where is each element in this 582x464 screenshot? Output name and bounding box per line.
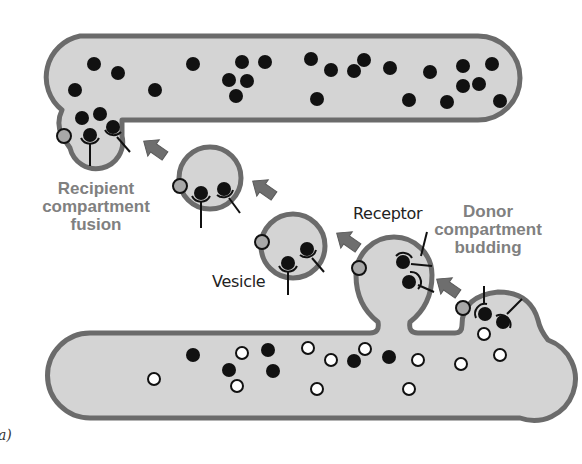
vesicle-2 bbox=[255, 214, 325, 295]
label-line: compartment bbox=[430, 221, 546, 239]
vesicle-1 bbox=[173, 147, 241, 228]
donor-budding-label: Donor compartment budding bbox=[430, 203, 546, 257]
recipient-fusion-label: Recipient compartment fusion bbox=[38, 180, 154, 234]
label-line: Recipient bbox=[38, 180, 154, 198]
receptor-label: Receptor bbox=[353, 206, 422, 223]
label-line: compartment bbox=[38, 198, 154, 216]
label-line: Donor bbox=[430, 203, 546, 221]
label-line: budding bbox=[430, 239, 546, 257]
vesicle-label: Vesicle bbox=[212, 274, 265, 291]
coat-marker bbox=[352, 261, 366, 275]
coat-marker bbox=[456, 301, 470, 315]
coat-marker bbox=[173, 179, 187, 193]
arrow-icon bbox=[431, 271, 464, 302]
coat-marker bbox=[57, 129, 71, 143]
label-line: fusion bbox=[38, 216, 154, 234]
arrow-icon bbox=[331, 225, 364, 256]
arrow-icon bbox=[247, 173, 280, 204]
coat-marker bbox=[255, 235, 269, 249]
arrow-icon bbox=[138, 133, 171, 164]
recipient-compartment bbox=[46, 36, 520, 169]
panel-label: a) bbox=[0, 427, 12, 443]
